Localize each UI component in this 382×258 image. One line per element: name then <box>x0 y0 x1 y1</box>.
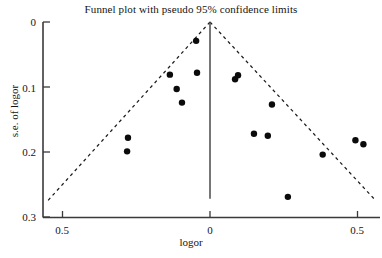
y-axis-ticks <box>43 22 50 217</box>
funnel-plot-figure: Funnel plot with pseudo 95% confidence l… <box>0 0 382 258</box>
data-point <box>193 38 199 44</box>
data-point <box>285 194 291 200</box>
data-point <box>265 133 271 139</box>
data-point <box>269 101 275 107</box>
funnel-plot-canvas <box>0 0 382 258</box>
data-point <box>232 76 238 82</box>
data-point <box>167 71 173 77</box>
data-point <box>124 148 130 154</box>
data-point <box>352 137 358 143</box>
data-point <box>251 131 257 137</box>
data-point <box>179 99 185 105</box>
pseudo-ci-line-0 <box>46 22 210 203</box>
data-point <box>173 86 179 92</box>
data-points <box>124 38 367 200</box>
data-point <box>194 70 200 76</box>
axis-spines <box>43 22 380 218</box>
data-point <box>319 151 325 157</box>
x-axis-ticks <box>63 211 358 218</box>
data-point <box>125 135 131 141</box>
pseudo-ci-line-1 <box>210 22 374 199</box>
data-point <box>360 141 366 147</box>
